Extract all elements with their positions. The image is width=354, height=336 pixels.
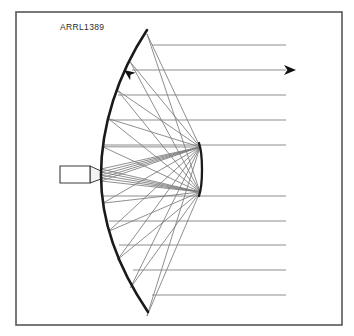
figure-label: ARRL1389 (60, 22, 104, 32)
figure-container: ARRL1389 (0, 0, 354, 336)
parabolic-reflector-diagram (0, 0, 354, 336)
feed-horn-waveguide (60, 166, 90, 183)
feed-horn-group (60, 166, 101, 183)
